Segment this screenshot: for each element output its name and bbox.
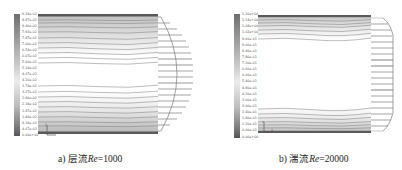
legend-label: 6.54e-02 (22, 49, 38, 52)
legend-label: 8.40e-02 (22, 25, 38, 28)
colorbar (14, 14, 20, 136)
svg-text:Y: Y (45, 123, 47, 127)
streamline-field (38, 14, 158, 134)
streamline-field (258, 15, 371, 133)
velocity-profile-arrows (158, 14, 194, 134)
legend-label: 6.00e-01 (242, 74, 258, 77)
caption-label: b) 湍流 (279, 154, 309, 164)
legend-label: 9.60e-01 (242, 38, 258, 41)
legend-label: 7.47e-02 (22, 37, 38, 40)
xy-axis-icon: Y X (44, 123, 58, 137)
legend-label: 1.14e+00 (242, 19, 258, 22)
caption-value: =1000 (98, 154, 122, 164)
legend-label: 4.80e-01 (242, 87, 258, 90)
svg-text:X: X (54, 131, 56, 135)
colorbar-labels: 1.20e+00 1.14e+00 1.08e+00 1.02e+00 9.60… (242, 13, 258, 139)
caption-label: a) 层流 (58, 154, 88, 164)
legend-label: 6.07e-02 (22, 55, 38, 58)
legend-label: 8.87e-02 (22, 19, 38, 22)
legend-label: 8.40e-01 (242, 50, 258, 53)
colorbar (234, 14, 240, 138)
legend-label: 1.20e+00 (242, 13, 258, 16)
caption-variable: Re (88, 154, 98, 164)
caption-b: b) 湍流Re=20000 (279, 151, 348, 165)
legend-label: 7.20e-01 (242, 62, 258, 65)
velocity-profile (158, 14, 194, 138)
legend-label: 7.00e-02 (22, 43, 38, 46)
panel-turbulent: 1.20e+00 1.14e+00 1.08e+00 1.02e+00 9.60… (201, 0, 402, 170)
legend-label: 4.20e-02 (22, 79, 38, 82)
legend-label: 1.87e-02 (22, 110, 38, 113)
legend-label: 0.00e+00 (22, 134, 38, 137)
legend-label: 6.60e-01 (242, 68, 258, 71)
caption-value: =20000 (319, 154, 348, 164)
legend-label: 5.14e-02 (22, 67, 38, 70)
legend-label: 3.27e-02 (22, 91, 38, 94)
caption-variable: Re (309, 154, 319, 164)
legend-label: 2.80e-02 (22, 97, 38, 100)
svg-text:X: X (271, 128, 273, 132)
legend-label: 4.20e-01 (242, 93, 258, 96)
legend-label: 3.74e-02 (22, 85, 38, 88)
xy-axis-icon: Y X (261, 120, 275, 134)
legend-label: 0.00e+00 (242, 136, 258, 139)
legend-label: 9.34e-02 (22, 13, 38, 16)
velocity-profile (371, 15, 395, 137)
axis-indicator: Y X (44, 123, 58, 141)
streamlines-graphic (38, 14, 158, 134)
legend-label: 3.00e-01 (242, 105, 258, 108)
legend-label: 6.00e-02 (242, 129, 258, 132)
legend-label: 3.60e-01 (242, 99, 258, 102)
legend-label: 7.80e-01 (242, 56, 258, 59)
caption-a: a) 层流Re=1000 (58, 151, 122, 165)
legend-label: 2.40e-01 (242, 111, 258, 114)
legend-label: 9.34e-03 (22, 122, 38, 125)
legend-label: 1.40e-02 (22, 116, 38, 119)
legend-label: 4.67e-03 (22, 128, 38, 131)
legend-label: 1.02e+00 (242, 31, 258, 34)
legend-label: 1.20e-01 (242, 123, 258, 126)
legend-label: 5.60e-02 (22, 61, 38, 64)
legend-label: 2.34e-02 (22, 103, 38, 106)
velocity-profile-arrows (371, 15, 395, 133)
legend-label: 7.93e-02 (22, 31, 38, 34)
panel-laminar: 9.34e-02 8.87e-02 8.40e-02 7.93e-02 7.47… (0, 0, 201, 170)
legend-label: 1.08e+00 (242, 25, 258, 28)
legend-label: 5.40e-01 (242, 80, 258, 83)
colorbar-labels: 9.34e-02 8.87e-02 8.40e-02 7.93e-02 7.47… (22, 13, 38, 137)
svg-text:Y: Y (262, 120, 264, 124)
streamlines-graphic (258, 15, 371, 133)
legend-label: 4.67e-02 (22, 73, 38, 76)
legend-label: 1.80e-01 (242, 117, 258, 120)
axis-indicator: Y X (261, 120, 275, 138)
legend-label: 9.00e-01 (242, 44, 258, 47)
